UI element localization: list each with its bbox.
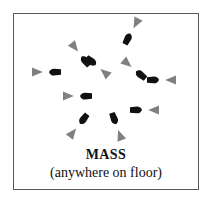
dancer-facing-arrow-icon [129, 16, 142, 30]
dancer-body-icon [84, 55, 98, 68]
formation-title: MASS [14, 146, 198, 163]
dancer-body-icon [109, 112, 120, 126]
dancer-body-icon [134, 68, 148, 81]
dancer-facing-arrow-icon [165, 75, 176, 84]
dancer-marker [116, 53, 151, 86]
dancer-facing-arrow-icon [68, 40, 82, 54]
dancer-marker [105, 109, 130, 146]
dancer-body-icon [49, 69, 61, 76]
dancer-body-icon [77, 112, 90, 126]
dancer-marker [118, 13, 146, 50]
dancer-marker [29, 65, 63, 79]
dancer-facing-arrow-icon [32, 67, 43, 76]
formation-subtitle: (anywhere on floor) [14, 164, 198, 182]
dancer-marker [62, 108, 94, 143]
dance-floor-area [14, 14, 198, 146]
dancer-body-icon [130, 106, 142, 113]
dancer-marker [128, 103, 162, 117]
formation-diagram: MASS (anywhere on floor) [0, 0, 214, 211]
dancer-marker [60, 89, 94, 103]
dancer-facing-arrow-icon [63, 91, 74, 100]
dancer-facing-arrow-icon [97, 66, 111, 80]
dancer-facing-arrow-icon [148, 105, 159, 114]
caption-block: MASS (anywhere on floor) [14, 146, 198, 182]
dancer-body-icon [122, 32, 134, 46]
dancer-facing-arrow-icon [66, 126, 80, 140]
formation-box: MASS (anywhere on floor) [13, 13, 199, 190]
dancer-body-icon [80, 93, 92, 100]
dancer-facing-arrow-icon [114, 128, 126, 141]
dancer-facing-arrow-icon [120, 56, 134, 70]
